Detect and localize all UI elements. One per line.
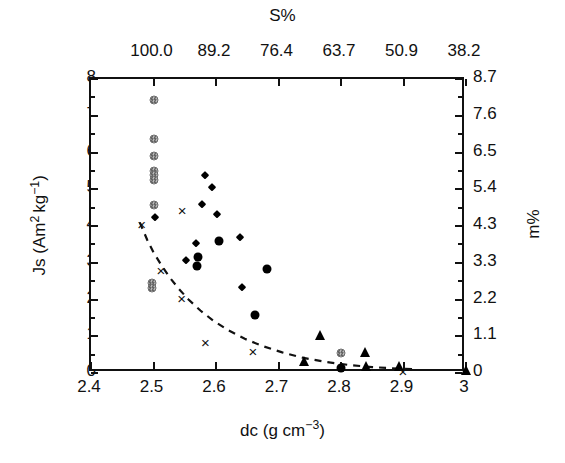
figure-panel-b: S% dc (g cm−3) Js (Am2kg−1) m% b 2.42.52… (0, 0, 565, 463)
left-axis-title-exponent-1: 2 (28, 216, 42, 223)
top-axis-title: S% (0, 6, 565, 26)
right-tick-label: 4.3 (473, 214, 497, 234)
data-point-cross: × (178, 203, 187, 218)
bottom-tick-label: 2.7 (265, 377, 289, 397)
data-point-filled-triangle (299, 356, 309, 366)
data-point-stippled-circle (337, 348, 346, 357)
right-tick-label: 5.4 (473, 177, 497, 197)
bottom-tick-label: 2.5 (140, 377, 164, 397)
data-point-stippled-circle (149, 134, 158, 143)
bottom-tick-label: 2.8 (327, 377, 351, 397)
left-axis-title-mid: kg (30, 195, 49, 213)
data-point-stippled-circle (147, 284, 156, 293)
data-point-filled-circle (251, 311, 260, 320)
right-tick-label: 1.1 (473, 324, 497, 344)
right-tick-label: 3.3 (473, 251, 497, 271)
bottom-axis-title-main: dc (g cm (240, 421, 305, 440)
axis-tick (465, 79, 467, 86)
top-tick-label: 38.2 (447, 41, 480, 61)
data-point-cross: × (248, 343, 257, 358)
left-axis-title-main: Js (Am (30, 223, 49, 276)
data-point-cross: × (157, 263, 166, 278)
right-axis-title: m% (524, 134, 544, 314)
plot-frame: ××××××× (89, 77, 464, 371)
top-tick-label: 100.0 (130, 41, 173, 61)
data-point-cross: × (137, 216, 146, 231)
data-point-cross: × (201, 335, 210, 350)
data-point-filled-circle (262, 264, 271, 273)
right-tick-label: 6.5 (473, 141, 497, 161)
top-tick-label: 89.2 (197, 41, 230, 61)
right-tick-label: 0 (473, 361, 482, 381)
data-point-filled-triangle (361, 361, 371, 371)
data-point-filled-triangle (461, 365, 471, 375)
bottom-tick-label: 2.6 (202, 377, 226, 397)
axis-tick (91, 372, 98, 374)
bottom-axis-title-exponent: −3 (305, 418, 319, 432)
bottom-tick-label: 2.9 (390, 377, 414, 397)
right-tick-label: 7.6 (473, 104, 497, 124)
data-point-stippled-circle (149, 200, 158, 209)
top-tick-label: 50.9 (385, 41, 418, 61)
data-point-stippled-circle (149, 175, 158, 184)
data-point-stippled-circle (149, 96, 158, 105)
data-point-filled-circle (193, 252, 202, 261)
data-point-stippled-circle (149, 152, 158, 161)
data-point-cross: × (177, 290, 186, 305)
right-tick-label: 8.7 (473, 67, 497, 87)
top-tick-label: 76.4 (260, 41, 293, 61)
data-point-filled-circle (337, 363, 346, 372)
left-axis-title-close: ) (30, 175, 49, 181)
left-axis-title: Js (Am2kg−1) (28, 110, 51, 340)
top-tick-label: 63.7 (322, 41, 355, 61)
bottom-tick-label: 3 (459, 377, 468, 397)
data-point-filled-triangle (360, 347, 370, 357)
data-point-cross: × (398, 364, 407, 379)
bottom-axis-title-close: ) (319, 421, 325, 440)
right-tick-label: 2.2 (473, 288, 497, 308)
bottom-axis-title: dc (g cm−3) (0, 418, 565, 441)
data-point-filled-circle (192, 262, 201, 271)
data-point-filled-circle (215, 237, 224, 246)
data-point-filled-triangle (315, 330, 325, 340)
trend-curve-layer (91, 79, 462, 369)
left-axis-title-exponent-2: −1 (28, 181, 42, 195)
